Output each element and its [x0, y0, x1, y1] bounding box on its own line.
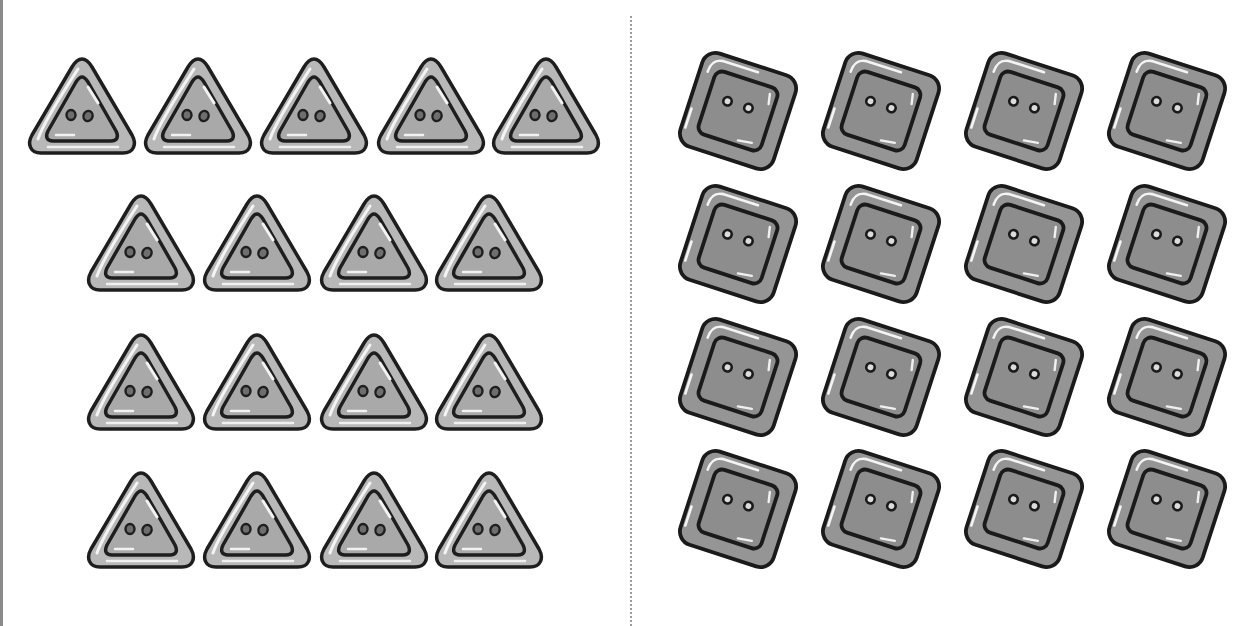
- triangle-button-icon: [201, 469, 313, 571]
- square-button-icon: [675, 53, 801, 169]
- triangle-button-icon: [318, 469, 430, 571]
- triangle-button-icon: [85, 192, 197, 294]
- square-button-icon: [675, 319, 801, 435]
- triangle-button-icon: [375, 55, 487, 157]
- square-button-icon: [818, 186, 944, 302]
- triangle-button-icon: [201, 192, 313, 294]
- triangle-button-icon: [433, 192, 545, 294]
- triangle-button-icon: [318, 331, 430, 433]
- triangle-button-icon: [433, 469, 545, 571]
- square-button-icon: [961, 186, 1087, 302]
- triangle-button-icon: [258, 55, 370, 157]
- square-buttons-panel: 16: [632, 0, 1242, 626]
- triangle-button-icon: [142, 55, 254, 157]
- triangle-button-icon: [85, 469, 197, 571]
- triangle-button-icon: [318, 192, 430, 294]
- square-button-icon: [1104, 451, 1230, 567]
- square-button-icon: [818, 451, 944, 567]
- square-button-icon: [961, 53, 1087, 169]
- square-button-icon: [675, 186, 801, 302]
- square-button-icon: [818, 319, 944, 435]
- triangle-button-icon: [433, 331, 545, 433]
- triangle-button-icon: [201, 331, 313, 433]
- triangle-button-icon: [26, 55, 138, 157]
- square-button-icon: [1104, 319, 1230, 435]
- square-button-icon: [961, 451, 1087, 567]
- square-button-icon: [961, 319, 1087, 435]
- triangle-button-icon: [490, 55, 602, 157]
- triangle-button-icon: [85, 331, 197, 433]
- triangle-count: 17: [0, 0, 1, 1]
- triangle-buttons-panel: 17: [0, 0, 630, 626]
- square-button-icon: [818, 53, 944, 169]
- square-button-icon: [1104, 186, 1230, 302]
- square-button-icon: [675, 451, 801, 567]
- square-count: 16: [632, 0, 633, 1]
- square-button-icon: [1104, 53, 1230, 169]
